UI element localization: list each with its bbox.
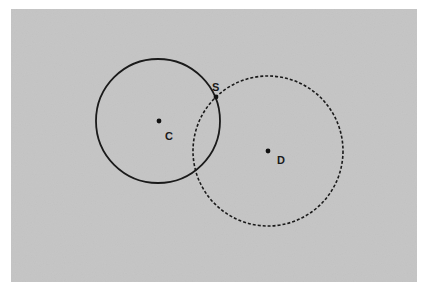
- point-D: [266, 149, 271, 154]
- circle-intersection-diagram: CDS: [0, 0, 428, 286]
- label-S: S: [212, 81, 219, 93]
- point-S: [214, 95, 219, 100]
- label-C: C: [165, 130, 173, 142]
- point-C: [157, 119, 162, 124]
- label-D: D: [277, 154, 285, 166]
